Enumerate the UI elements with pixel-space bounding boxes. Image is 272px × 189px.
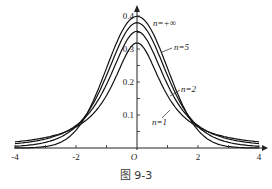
t-distribution-figure: -4-2O240.10.20.30.4 n=+∞ n=5 n=2 n=1 图 9… bbox=[0, 0, 272, 189]
chart-plot: -4-2O240.10.20.30.4 n=+∞ n=5 n=2 n=1 bbox=[0, 0, 272, 189]
x-tick-label: 4 bbox=[257, 152, 262, 162]
label-n-inf: n=+∞ bbox=[153, 18, 176, 28]
x-tick-label: -2 bbox=[72, 152, 80, 162]
y-tick-label: 0.4 bbox=[123, 11, 135, 21]
x-tick-label: 2 bbox=[196, 152, 201, 162]
x-tick-label: -4 bbox=[11, 152, 19, 162]
x-tick-label: O bbox=[131, 152, 138, 162]
label-n5: n=5 bbox=[174, 42, 190, 52]
leader-n5 bbox=[162, 48, 172, 52]
x-axis-arrow-icon bbox=[262, 145, 268, 151]
figure-caption: 图 9-3 bbox=[0, 166, 272, 182]
label-n1: n=1 bbox=[152, 117, 167, 127]
y-tick-label: 0.3 bbox=[123, 44, 135, 54]
y-tick-label: 0.2 bbox=[123, 77, 134, 87]
label-n2: n=2 bbox=[181, 84, 197, 94]
y-tick-label: 0.1 bbox=[123, 110, 134, 120]
y-axis-arrow-icon bbox=[134, 5, 140, 12]
